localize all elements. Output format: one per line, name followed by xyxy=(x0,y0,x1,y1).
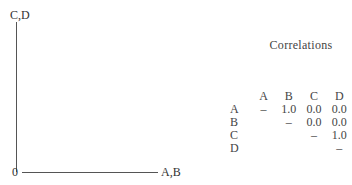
table-row: D – xyxy=(230,142,352,155)
cell xyxy=(276,129,301,142)
cell xyxy=(251,116,276,129)
origin-label: 0 xyxy=(12,166,18,178)
correlations-table: A B C D A – 1.0 0.0 0.0 B – 0.0 0.0 C – … xyxy=(230,90,352,155)
cell: – xyxy=(251,103,276,116)
cell xyxy=(251,142,276,155)
cell xyxy=(251,129,276,142)
y-axis xyxy=(16,22,17,172)
correlations-title: Correlations xyxy=(256,38,346,53)
row-header: D xyxy=(230,142,251,155)
cell: – xyxy=(327,142,352,155)
x-axis-label: A,B xyxy=(161,166,181,178)
y-axis-label: C,D xyxy=(10,9,30,21)
cell: – xyxy=(276,116,301,129)
cell xyxy=(301,142,326,155)
cell: – xyxy=(301,129,326,142)
cell xyxy=(276,142,301,155)
x-axis xyxy=(22,172,158,173)
table-row: C – 1.0 xyxy=(230,129,352,142)
